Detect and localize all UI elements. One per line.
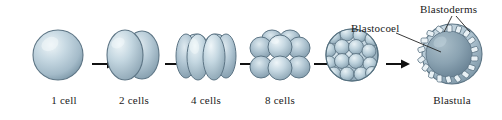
caption-two-cell: 2 cells [94,94,174,106]
stage-four-cell [172,22,244,84]
one-cell-illustration [30,22,86,84]
two-cell-illustration [100,22,168,84]
stage-one-cell [30,22,86,84]
stage-blastula [414,18,488,80]
label-blastoderms: Blastoderms [420,3,477,15]
blastula-illustration [414,18,488,88]
caption-blastula: Blastula [412,94,492,106]
label-blastocoel: Blastocoel [351,22,399,34]
eight-cell-illustration [246,22,316,84]
caption-four-cell: 4 cells [166,94,246,106]
caption-eight-cell: 8 cells [240,94,320,106]
cleavage-diagram: Blastocoel Blastoderms 1 cell 2 cells 4 … [0,0,502,120]
arrow-right-icon [386,56,410,74]
four-cell-illustration [172,22,244,84]
caption-one-cell: 1 cell [26,94,102,106]
stage-two-cell [100,22,168,84]
stage-eight-cell [246,22,316,84]
